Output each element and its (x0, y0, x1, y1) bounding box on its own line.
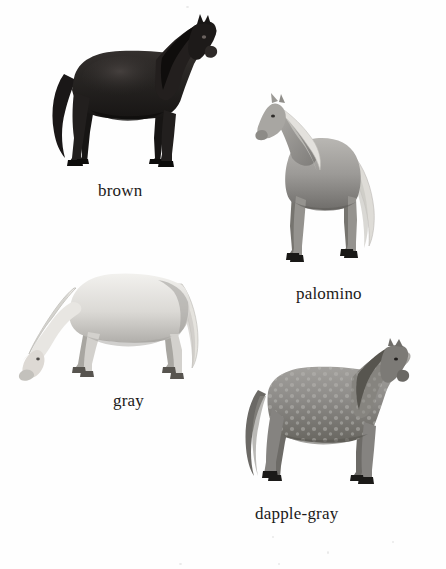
palomino-hoof-far-fore (286, 253, 300, 260)
brown-ear-near (197, 14, 204, 24)
palomino-ear-far (279, 94, 285, 103)
gray-horse-illustration (14, 258, 212, 384)
brown-eye (202, 35, 206, 38)
gray-muzzle (19, 369, 34, 380)
gray-hoof-near-hind (170, 373, 184, 379)
dapple-hoof-far-fore (350, 475, 364, 481)
dapple-gray-horse-illustration (234, 338, 414, 490)
scan-speckle (278, 563, 280, 565)
caption-palomino: palomino (296, 284, 362, 304)
caption-gray: gray (113, 391, 144, 411)
dapple-ear-far (395, 339, 403, 347)
caption-brown: brown (98, 181, 142, 201)
palomino-horse-illustration (248, 92, 388, 272)
dapple-eye (394, 357, 398, 360)
scan-speckle (392, 541, 394, 543)
illustration-plate: brown (0, 0, 446, 569)
gray-hoof-far-fore (72, 367, 86, 373)
gray-hoof-far-hind (162, 367, 176, 373)
figure-brown (38, 12, 220, 174)
brown-muzzle (205, 46, 217, 58)
gray-eye (36, 358, 40, 361)
figure-dapple-gray (234, 338, 414, 490)
palomino-ear-near (271, 93, 278, 103)
brown-hoof-far-hind (76, 159, 89, 164)
figure-palomino (248, 92, 388, 272)
brown-hoof-far-fore (149, 159, 162, 164)
brown-tail (52, 74, 76, 158)
brown-body-sheen (82, 56, 166, 100)
palomino-eye (271, 114, 275, 117)
scan-speckle (272, 536, 274, 538)
dapple-hoof-far-hind (268, 475, 282, 481)
scan-speckle (327, 551, 329, 554)
gray-body (69, 273, 190, 342)
scan-speckle (179, 563, 182, 565)
palomino-muzzle (255, 130, 267, 140)
dapple-ear-near (388, 338, 394, 346)
brown-horse-illustration (38, 12, 220, 174)
figure-gray (14, 258, 212, 384)
palomino-hoof-far-hind (340, 249, 354, 256)
caption-dapple-gray: dapple-gray (255, 504, 338, 524)
scan-speckle (186, 6, 189, 8)
dapple-muzzle (397, 370, 409, 382)
